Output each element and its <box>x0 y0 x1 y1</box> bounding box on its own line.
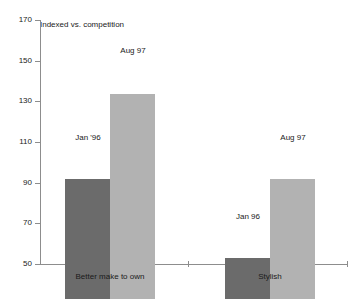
x-tick-mark <box>188 261 189 267</box>
chart-annotation: Indexed vs. competition <box>40 20 124 29</box>
y-axis-label-70: 70 <box>0 219 32 227</box>
bar-aug97-better-make-to-own[interactable] <box>110 94 155 299</box>
y-tick-mark <box>35 183 41 184</box>
y-tick-mark <box>35 61 41 62</box>
bar-value-label-jan96-better-make-to-own: Jan '96 <box>62 133 114 142</box>
bar-chart: Indexed vs. competition 170 150 130 110 … <box>0 0 364 299</box>
y-axis-label-50: 50 <box>0 260 32 268</box>
x-tick-mark <box>347 261 348 267</box>
bar-group-stylish <box>225 55 315 299</box>
y-axis-label-170: 170 <box>0 16 32 24</box>
bar-value-label-jan96-stylish: Jan 96 <box>222 212 274 221</box>
y-tick-mark <box>35 20 41 21</box>
y-axis-label-130: 130 <box>0 97 32 105</box>
bar-value-label-aug97-better-make-to-own: Aug 97 <box>107 46 159 55</box>
x-category-label-stylish: Stylish <box>225 272 315 281</box>
y-axis-label-150: 150 <box>0 57 32 65</box>
bar-aug97-stylish[interactable] <box>270 179 315 299</box>
y-tick-mark <box>35 101 41 102</box>
bar-jan96-better-make-to-own[interactable] <box>65 179 110 299</box>
y-tick-mark <box>35 223 41 224</box>
y-axis-label-90: 90 <box>0 179 32 187</box>
y-tick-mark <box>35 142 41 143</box>
bar-group-better-make-to-own <box>65 55 155 299</box>
bar-value-label-aug97-stylish: Aug 97 <box>267 133 319 142</box>
x-category-label-better-make-to-own: Better make to own <box>65 272 155 281</box>
y-axis-label-110: 110 <box>0 138 32 146</box>
